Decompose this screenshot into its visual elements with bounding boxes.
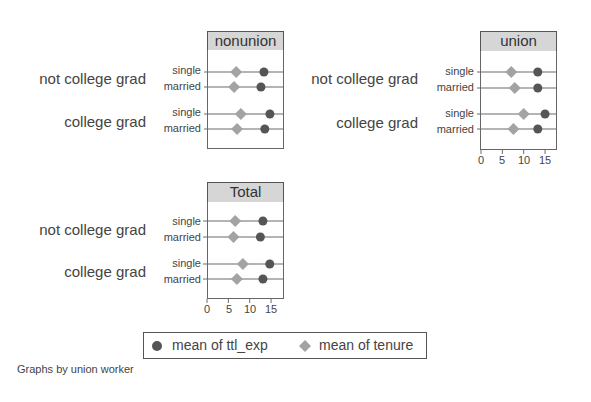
ttl-exp-circle-marker bbox=[533, 68, 542, 77]
ttl-exp-circle-marker bbox=[260, 125, 269, 134]
graph-note: Graphs by union worker bbox=[17, 363, 134, 375]
legend-label-tenure: mean of tenure bbox=[319, 337, 413, 353]
legend-diamond-icon bbox=[299, 340, 311, 352]
tenure-diamond-marker bbox=[518, 108, 530, 120]
ttl-exp-circle-marker bbox=[258, 275, 267, 284]
legend-label-ttl-exp: mean of ttl_exp bbox=[172, 337, 268, 353]
ttl-exp-circle-marker bbox=[256, 233, 265, 242]
tenure-diamond-marker bbox=[230, 66, 242, 78]
tenure-diamond-marker bbox=[228, 81, 240, 93]
tenure-diamond-marker bbox=[507, 123, 519, 135]
ttl-exp-circle-marker bbox=[541, 110, 550, 119]
ttl-exp-circle-marker bbox=[258, 217, 267, 226]
legend-circle-icon bbox=[152, 341, 162, 351]
ttl-exp-circle-marker bbox=[265, 260, 274, 269]
ttl-exp-circle-marker bbox=[265, 110, 274, 119]
ttl-exp-circle-marker bbox=[256, 83, 265, 92]
tenure-diamond-marker bbox=[231, 273, 243, 285]
tenure-diamond-marker bbox=[229, 215, 241, 227]
tenure-diamond-marker bbox=[231, 123, 243, 135]
legend: mean of ttl_exp mean of tenure bbox=[143, 332, 427, 359]
tenure-diamond-marker bbox=[509, 82, 521, 94]
tenure-diamond-marker bbox=[237, 258, 249, 270]
tenure-diamond-marker bbox=[227, 231, 239, 243]
ttl-exp-circle-marker bbox=[259, 68, 268, 77]
ttl-exp-circle-marker bbox=[533, 84, 542, 93]
tenure-diamond-marker bbox=[235, 108, 247, 120]
ttl-exp-circle-marker bbox=[533, 125, 542, 134]
tenure-diamond-marker bbox=[505, 66, 517, 78]
